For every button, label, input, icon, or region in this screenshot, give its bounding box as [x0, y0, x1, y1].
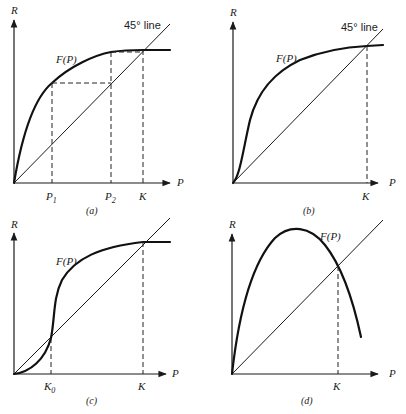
- figure: R P F(P) 45° line P1 P2 K (a) R P F(P) 4…: [0, 0, 406, 414]
- f-p-curve: [232, 229, 361, 374]
- tick-p2: P2: [104, 190, 116, 205]
- tick-k: K: [137, 380, 146, 392]
- y-axis-label: R: [10, 4, 18, 16]
- tick-k: K: [361, 190, 370, 202]
- y-axis-label: R: [229, 6, 237, 18]
- tick-k0: K0: [43, 380, 55, 395]
- f-p-curve: [14, 50, 170, 183]
- curve-label: F(P): [55, 53, 77, 66]
- 45-degree-line: [232, 220, 383, 374]
- panel-a: R P F(P) 45° line P1 P2 K (a): [10, 4, 184, 217]
- panel-caption: (b): [303, 205, 315, 217]
- f-p-curve: [14, 242, 170, 374]
- f-p-curve: [233, 45, 383, 183]
- y-axis-label: R: [228, 218, 236, 230]
- tick-p1: P1: [45, 190, 57, 205]
- line-label: 45° line: [341, 21, 378, 33]
- panel-caption: (a): [86, 205, 98, 217]
- tick-k: K: [138, 190, 147, 202]
- curve-label: F(P): [319, 230, 341, 243]
- panel-d: R P F(P) K (d): [228, 218, 396, 407]
- panel-c: R P F(P) K0 K (c): [10, 218, 179, 407]
- x-axis-label: P: [176, 176, 184, 188]
- tick-k: K: [332, 380, 341, 392]
- x-axis-label: P: [388, 176, 396, 188]
- y-axis-label: R: [10, 218, 18, 230]
- panel-b: R P F(P) 45° line K (b): [229, 6, 396, 217]
- line-label: 45° line: [124, 19, 161, 31]
- curve-label: F(P): [275, 52, 297, 65]
- panel-caption: (c): [86, 395, 98, 407]
- x-axis-label: P: [388, 367, 396, 379]
- x-axis-label: P: [171, 367, 179, 379]
- panel-caption: (d): [301, 395, 313, 407]
- curve-label: F(P): [55, 255, 77, 268]
